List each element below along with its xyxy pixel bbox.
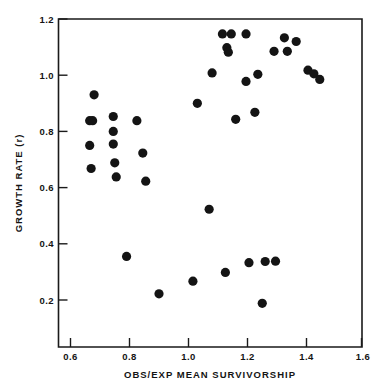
x-axis-title: OBS/EXP MEAN SURVIVORSHIP [124,369,296,380]
x-tick-label: 1.2 [240,351,254,362]
y-tick-label: 0.8 [40,126,54,137]
x-tick-label: 0.6 [63,351,77,362]
data-point [221,268,230,277]
data-point [110,158,119,167]
data-point [87,164,96,173]
data-point [280,33,289,42]
x-tick-label: 0.8 [122,351,136,362]
data-point [253,70,262,79]
data-point [109,127,118,136]
y-tick-label: 1.2 [40,14,54,25]
data-point [292,37,301,46]
data-point [132,116,141,125]
data-point [188,277,197,286]
plot-canvas: 1.2 1.0 0.8 0.6 0.4 0.2 0.6 0.8 1.0 1.2 … [0,0,380,391]
data-point [205,205,214,214]
data-point [261,257,270,266]
y-axis-title: GROWTH RATE (r) [13,134,24,233]
data-point [258,299,267,308]
data-point [315,75,324,84]
data-point [109,112,118,121]
data-point [193,99,202,108]
data-point [90,90,99,99]
x-tick-label: 1.0 [181,351,195,362]
y-tick-label: 0.2 [40,295,54,306]
y-tick-label: 0.6 [40,182,54,193]
data-point [224,48,233,57]
x-tick-label: 1.6 [356,351,370,362]
data-point [109,139,118,148]
data-point [88,116,97,125]
y-tick-label: 0.4 [40,238,55,249]
data-point [283,47,292,56]
data-point [271,257,280,266]
data-point [141,177,150,186]
data-point [85,141,94,150]
data-point [112,172,121,181]
data-point [227,29,236,38]
x-tick-label: 1.4 [299,351,314,362]
y-tick-label: 1.0 [40,70,54,81]
data-point [154,289,163,298]
data-point [244,258,253,267]
plot-background [0,0,380,391]
data-point [269,47,278,56]
data-point [231,115,240,124]
data-point [138,148,147,157]
scatter-plot-figure: 1.2 1.0 0.8 0.6 0.4 0.2 0.6 0.8 1.0 1.2 … [0,0,380,391]
data-point [122,252,131,261]
data-point [241,29,250,38]
data-point [218,29,227,38]
data-point [250,108,259,117]
data-point [208,68,217,77]
data-point [241,77,250,86]
